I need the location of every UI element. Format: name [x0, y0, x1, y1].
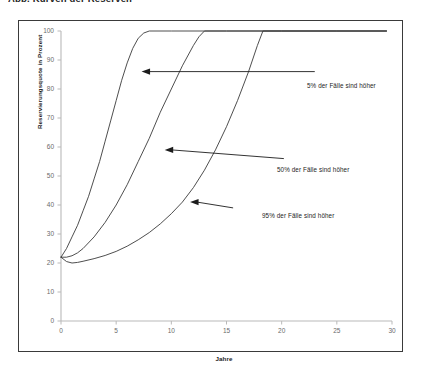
y-tick-30: 30	[36, 230, 54, 237]
y-tick-0: 0	[36, 317, 54, 324]
x-tick-5: 5	[107, 327, 125, 334]
y-tick-50: 50	[36, 172, 54, 179]
x-axis-title: Jahre	[179, 355, 269, 362]
annotation-label-p5: 5% der Fälle sind höher	[307, 82, 376, 89]
document-heading: Abb. Kurven der Reserven	[8, 0, 248, 7]
x-tick-30: 30	[383, 327, 401, 334]
x-tick-25: 25	[328, 327, 346, 334]
chart-series-group	[61, 31, 386, 263]
page-canvas: Abb. Kurven der Reserven 010203040506070…	[0, 0, 421, 368]
x-tick-15: 15	[218, 327, 236, 334]
x-tick-10: 10	[162, 327, 180, 334]
annotation-label-p95: 95% der Fälle sind höher	[262, 212, 334, 219]
y-tick-60: 60	[36, 143, 54, 150]
annotation-label-p50: 50% der Fälle sind höher	[277, 166, 349, 173]
y-tick-40: 40	[36, 201, 54, 208]
chart-annotation-arrows	[142, 69, 315, 208]
x-tick-20: 20	[273, 327, 291, 334]
y-tick-20: 20	[36, 259, 54, 266]
chart-frame: 0102030405060708090100 051015202530 Rese…	[18, 20, 403, 352]
y-axis-title: Reservierungsquote in Prozent	[36, 29, 43, 129]
chart-plot-area	[19, 21, 402, 351]
x-tick-0: 0	[52, 327, 70, 334]
y-tick-10: 10	[36, 288, 54, 295]
chart-axes	[58, 31, 393, 325]
